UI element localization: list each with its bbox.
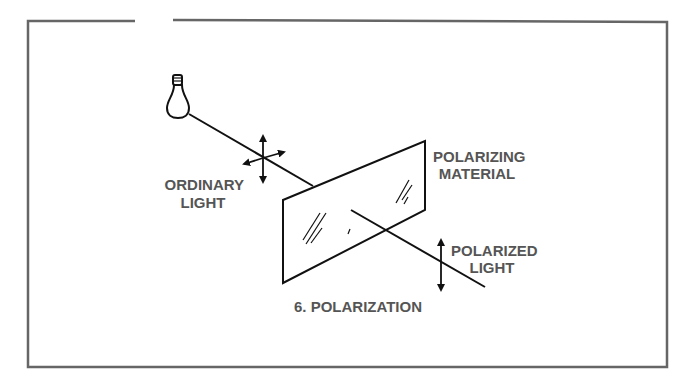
polarization-diagram: ORDINARY LIGHT POLARIZING MATERIAL POLAR… bbox=[0, 0, 695, 384]
unpolarized-arrows-icon bbox=[244, 136, 284, 182]
polarized-light-label-line2: LIGHT bbox=[470, 259, 515, 276]
polarized-light-label-line1: POLARIZED bbox=[451, 242, 538, 259]
polarizing-material-label-line1: POLARIZING bbox=[433, 148, 526, 165]
figure-caption: 6. POLARIZATION bbox=[294, 298, 422, 315]
ordinary-light-label-line2: LIGHT bbox=[181, 194, 226, 211]
ordinary-light-label-line1: ORDINARY bbox=[165, 176, 244, 193]
polarizing-material-label-line2: MATERIAL bbox=[439, 165, 515, 182]
light-bulb-icon bbox=[167, 75, 189, 118]
